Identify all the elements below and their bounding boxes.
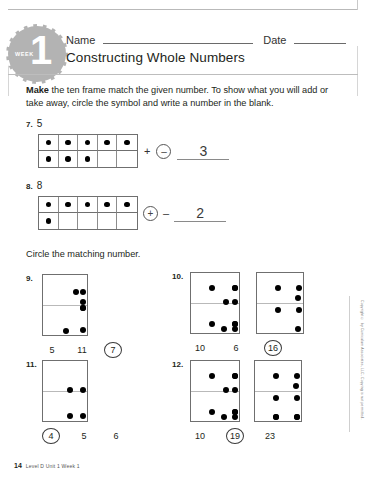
choice-circled[interactable]: 7 (104, 342, 122, 358)
problem-12-dot-box-1[interactable] (190, 360, 240, 422)
problem-9-number: 9. (26, 274, 33, 283)
page-top-divider-right (357, 0, 358, 10)
ten-frame-cell[interactable] (59, 213, 79, 229)
ten-frame-cell[interactable] (117, 213, 137, 229)
ten-frame-cell[interactable] (39, 213, 59, 229)
page-footer: 14 Level D Unit 1 Week 1 (14, 462, 80, 469)
problem-8-circled-operator[interactable]: + (143, 206, 158, 221)
ten-frame-dot (85, 156, 91, 162)
footer-text: Level D Unit 1 Week 1 (26, 463, 80, 469)
problem-11: 11. 456 (26, 360, 124, 444)
dot (67, 413, 73, 419)
ten-frame-cell[interactable] (59, 197, 79, 213)
dot (232, 373, 238, 379)
choice[interactable]: 5 (76, 428, 92, 444)
dot (67, 387, 73, 393)
ten-frame-dot (65, 202, 71, 208)
ten-frame-cell[interactable] (78, 197, 98, 213)
ten-frame-dot (46, 218, 52, 224)
problem-7-number: 7. (26, 120, 33, 129)
dot (273, 414, 279, 420)
ten-frame-cell[interactable] (39, 135, 59, 151)
choice[interactable]: 10 (192, 428, 208, 444)
problem-12-dot-box-2[interactable] (254, 360, 302, 422)
footer-page-number: 14 (14, 462, 22, 469)
problem-7-circled-operator[interactable]: – (156, 144, 171, 159)
dot (73, 289, 79, 295)
dot (275, 285, 281, 291)
dot (221, 414, 227, 420)
problem-9-dot-box[interactable] (42, 274, 88, 336)
ten-frame-cell[interactable] (117, 151, 137, 167)
ten-frame-dot (46, 156, 52, 162)
choice-circled[interactable]: 19 (226, 428, 244, 444)
problem-11-choices: 456 (42, 428, 124, 444)
problem-9-choices: 5117 (42, 342, 122, 358)
problem-8-minus-symbol: – (163, 207, 169, 219)
ten-frame-dot (124, 202, 130, 208)
name-input-line[interactable] (103, 33, 253, 44)
ten-frame-cell[interactable] (78, 151, 98, 167)
problem-7: 7. 5 + – 3 (26, 118, 229, 168)
choice-circled[interactable]: 16 (264, 340, 282, 356)
dot (221, 326, 227, 332)
dot (296, 307, 302, 313)
problem-8-ten-frame[interactable] (38, 196, 138, 230)
choice[interactable]: 10 (192, 340, 208, 356)
dot-box-midline (255, 391, 301, 392)
problem-11-dot-box[interactable] (42, 360, 88, 422)
ten-frame-cell[interactable] (39, 151, 59, 167)
ten-frame-cell[interactable] (117, 197, 137, 213)
choice[interactable]: 11 (74, 342, 90, 358)
choice[interactable]: 23 (262, 428, 278, 444)
instructions-rest: the ten frame match the given number. To… (26, 85, 328, 108)
ten-frame-cell[interactable] (78, 213, 98, 229)
ten-frame-cell[interactable] (59, 135, 79, 151)
dot (232, 299, 238, 305)
dot (296, 285, 302, 291)
dot (293, 383, 299, 389)
ten-frame-cell[interactable] (98, 135, 118, 151)
ten-frame-dot (104, 140, 110, 146)
ten-frame-dot (124, 140, 130, 146)
dot (63, 328, 69, 334)
date-input-line[interactable] (294, 33, 346, 44)
problem-7-ten-frame[interactable] (38, 134, 138, 168)
problem-8-answer-blank[interactable]: 2 (174, 204, 226, 222)
problem-11-number: 11. (26, 360, 37, 369)
dot (209, 373, 215, 379)
date-label: Date (263, 34, 286, 46)
choice[interactable]: 6 (108, 428, 124, 444)
ten-frame-dot (65, 140, 71, 146)
ten-frame-cell[interactable] (98, 151, 118, 167)
choice[interactable]: 5 (44, 342, 60, 358)
ten-frame-cell[interactable] (117, 135, 137, 151)
problem-7-answer-blank[interactable]: 3 (177, 142, 229, 160)
problem-7-given-number: 5 (37, 118, 43, 129)
problem-10: 10. 10616 (172, 272, 304, 356)
instructions-lead: Make (26, 85, 49, 95)
ten-frame-dot (85, 202, 91, 208)
worksheet-header: WEEK 1 Name Date Constructing Whole Numb… (0, 22, 366, 74)
name-label: Name (66, 34, 95, 46)
dot (232, 326, 238, 332)
choice[interactable]: 6 (228, 340, 244, 356)
problem-8-number: 8. (26, 182, 33, 191)
ten-frame-cell[interactable] (59, 151, 79, 167)
section2-rest: the matching number. (49, 249, 140, 259)
problem-8-given-number: 8 (37, 180, 43, 191)
problem-10-dot-box-1[interactable] (190, 272, 240, 334)
header-right-border (357, 46, 358, 96)
problem-10-dot-box-2[interactable] (256, 272, 304, 334)
ten-frame-cell[interactable] (78, 135, 98, 151)
ten-frame-dot (85, 140, 91, 146)
dot-box-midline (257, 303, 303, 304)
problem-8-answer-value: 2 (196, 206, 204, 221)
ten-frame-cell[interactable] (39, 197, 59, 213)
ten-frame-cell[interactable] (98, 197, 118, 213)
problem-12-choices: 101923 (190, 428, 302, 444)
choice-circled[interactable]: 4 (42, 428, 60, 444)
worksheet-page: WEEK 1 Name Date Constructing Whole Numb… (0, 0, 366, 483)
dot (295, 295, 301, 301)
ten-frame-cell[interactable] (98, 213, 118, 229)
